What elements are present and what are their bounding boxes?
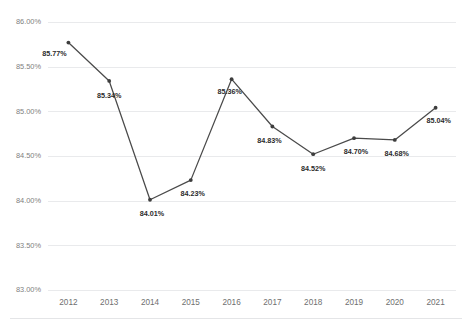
data-label-2012: 85.77% [42,49,67,58]
data-point-2012 [67,41,71,45]
x-axis-label-2018: 2018 [304,298,323,307]
x-axis-label-2016: 2016 [222,298,241,307]
data-label-2015: 84.23% [181,189,206,198]
data-point-2020 [393,138,397,142]
data-label-2020: 84.68% [385,149,410,158]
data-label-2019: 84.70% [344,147,369,156]
data-point-labels: 85.77%85.34%84.01%84.23%85.36%84.83%84.5… [42,49,451,217]
y-axis-label: 84.50% [16,151,41,160]
x-axis-label-2014: 2014 [141,298,160,307]
x-axis-label-2015: 2015 [182,298,201,307]
data-point-2021 [434,106,438,110]
data-label-2013: 85.34% [97,91,122,100]
data-label-2014: 84.01% [140,209,165,218]
data-point-2016 [230,77,234,81]
x-axis-label-2013: 2013 [100,298,119,307]
data-label-2018: 84.52% [301,164,326,173]
x-axis-tick-labels: 2012201320142015201620172018201920202021 [59,298,445,307]
line-chart: 86.00%85.50%85.00%84.50%84.00%83.50%83.0… [0,0,471,331]
chart-canvas: 86.00%85.50%85.00%84.50%84.00%83.50%83.0… [0,0,471,331]
data-point-2015 [189,178,193,182]
y-axis-label: 86.00% [16,17,41,26]
data-point-2013 [107,79,111,83]
series-line-path [68,43,435,200]
data-label-2016: 85.36% [217,87,242,96]
y-axis-tick-labels: 86.00%85.50%85.00%84.50%84.00%83.50%83.0… [16,17,41,294]
y-axis-label: 84.00% [16,196,41,205]
x-axis-label-2012: 2012 [59,298,78,307]
data-point-2014 [148,198,152,202]
data-point-markers [67,41,438,202]
data-label-2017: 84.83% [257,136,282,145]
x-axis-label-2020: 2020 [386,298,405,307]
y-axis-label: 85.50% [16,62,41,71]
data-label-2021: 85.04% [426,116,451,125]
data-point-2018 [311,152,315,156]
data-point-2017 [271,125,275,129]
x-axis-label-2021: 2021 [426,298,445,307]
y-axis-label: 83.50% [16,241,41,250]
data-series-line [68,43,435,200]
y-axis-label: 85.00% [16,107,41,116]
data-point-2019 [352,136,356,140]
x-axis-label-2019: 2019 [345,298,364,307]
y-axis-label: 83.00% [16,285,41,294]
x-axis-label-2017: 2017 [263,298,282,307]
